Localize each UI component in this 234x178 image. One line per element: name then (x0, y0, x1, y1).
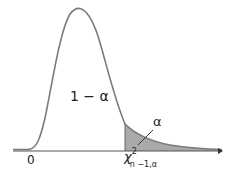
chi-square-diagram (0, 0, 234, 178)
tail-shaded-area (125, 124, 222, 151)
critical-superscript: 2 (132, 147, 137, 156)
critical-subscript: n −1,α (130, 160, 157, 169)
central-area-label: 1 − α (70, 88, 109, 104)
origin-label: 0 (27, 153, 35, 167)
tail-area-label: α (153, 114, 162, 129)
critical-value-label: χ2n −1,α (124, 149, 164, 167)
density-curve (13, 8, 222, 149)
